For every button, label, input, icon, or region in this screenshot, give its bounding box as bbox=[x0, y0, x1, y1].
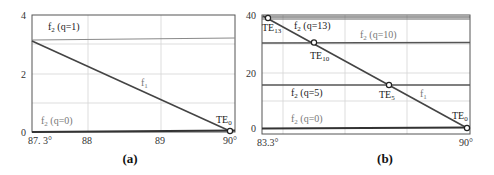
chart-a-xtick-90: 90° bbox=[223, 135, 237, 146]
chart-b-panel-label: (b) bbox=[377, 151, 393, 166]
figure: 4 2 0 87. 3° 88 89 90° f2 (q=1) f1 f2 (q… bbox=[0, 0, 494, 175]
chart-a-xtick-88: 88 bbox=[82, 135, 92, 146]
chart-b-label-f2-q5: f2 (q=5) bbox=[291, 87, 323, 100]
chart-b-f1-line bbox=[263, 16, 467, 128]
chart-b-te13-marker bbox=[265, 15, 270, 20]
chart-b-xtick-83-3: 83.3° bbox=[257, 137, 279, 148]
chart-b: 40 20 0 83.3° 90° TE13 f2 (q=13) f2 (q=1… bbox=[246, 10, 473, 166]
chart-b-label-f1: f1 bbox=[420, 88, 427, 101]
chart-a-xtick-89: 89 bbox=[155, 135, 165, 146]
chart-a-ytick-4: 4 bbox=[21, 10, 26, 21]
chart-b-te10-marker bbox=[311, 40, 316, 45]
chart-a-xtick-87-3: 87. 3° bbox=[28, 135, 52, 146]
chart-a-f2-q1-line bbox=[32, 38, 235, 40]
chart-b-te5-marker bbox=[386, 82, 391, 87]
chart-a-label-f2-q0: f2 (q=0) bbox=[41, 115, 73, 128]
chart-b-ytick-20: 20 bbox=[246, 68, 256, 79]
chart-a-ytick-2: 2 bbox=[21, 69, 26, 80]
chart-b-xtick-90: 90° bbox=[459, 137, 473, 148]
chart-a: 4 2 0 87. 3° 88 89 90° f2 (q=1) f1 f2 (q… bbox=[21, 10, 237, 166]
chart-a-panel-label: (a) bbox=[122, 151, 137, 166]
chart-b-te0-marker bbox=[464, 125, 469, 130]
chart-b-f2-q10-line bbox=[262, 43, 470, 44]
chart-a-label-f2-q1: f2 (q=1) bbox=[48, 21, 80, 34]
chart-a-te0-marker bbox=[227, 128, 232, 133]
chart-b-label-f2-q13: f2 (q=13) bbox=[294, 20, 331, 33]
chart-b-label-f2-q10: f2 (q=10) bbox=[360, 29, 397, 42]
chart-b-label-te10: TE10 bbox=[310, 50, 330, 63]
chart-b-f2-q0-line bbox=[262, 128, 470, 129]
chart-b-label-f2-q0: f2 (q=0) bbox=[291, 113, 323, 126]
chart-b-ytick-0: 0 bbox=[251, 123, 256, 134]
chart-a-label-f1: f1 bbox=[141, 77, 148, 90]
chart-a-ytick-0: 0 bbox=[21, 127, 26, 138]
chart-b-ytick-40: 40 bbox=[246, 10, 256, 21]
chart-b-label-te5: TE5 bbox=[379, 89, 395, 102]
